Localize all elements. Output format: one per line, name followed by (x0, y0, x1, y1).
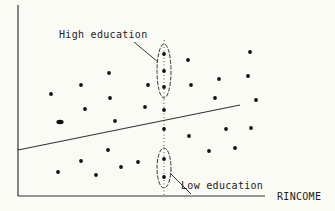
data-point (79, 83, 83, 87)
data-point (94, 173, 98, 177)
data-point (162, 127, 166, 131)
data-point (108, 96, 112, 100)
data-point (233, 146, 237, 150)
data-point (186, 58, 190, 62)
data-point (107, 71, 111, 75)
high-education-leader (134, 42, 158, 62)
data-point (162, 52, 166, 56)
data-point (187, 134, 191, 138)
data-point (79, 159, 83, 163)
data-point (162, 85, 166, 89)
data-point (136, 160, 140, 164)
x-axis-label: RINCOME (277, 191, 321, 202)
scatter-chart: RINCOME High education Low education (0, 0, 335, 211)
data-point (83, 107, 87, 111)
data-point (106, 148, 110, 152)
data-point (217, 77, 221, 81)
data-point (207, 149, 211, 153)
regression-line (18, 105, 240, 150)
data-point (113, 119, 117, 123)
data-points (49, 50, 258, 179)
data-point (146, 83, 150, 87)
data-point (56, 170, 60, 174)
data-point (189, 83, 193, 87)
data-point (119, 165, 123, 169)
data-point (49, 92, 53, 96)
data-point (213, 96, 217, 100)
data-point (162, 157, 166, 161)
data-point (162, 175, 166, 179)
low-education-ellipse (157, 148, 171, 188)
data-point (143, 105, 147, 109)
data-point (248, 50, 252, 54)
data-point (254, 98, 258, 102)
data-point (162, 69, 166, 73)
data-point (162, 108, 166, 112)
data-point (249, 126, 253, 130)
low-education-label: Low education (181, 180, 263, 191)
high-education-label: High education (59, 29, 148, 40)
data-point-large (56, 120, 63, 124)
data-point (246, 74, 250, 78)
data-point (224, 127, 228, 131)
